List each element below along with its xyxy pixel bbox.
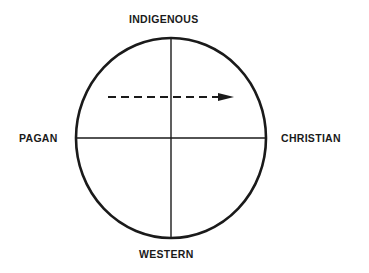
label-indigenous: INDIGENOUS: [129, 14, 199, 25]
label-christian: CHRISTIAN: [281, 133, 341, 144]
label-western: WESTERN: [139, 249, 194, 260]
arrowhead-icon: [218, 93, 234, 101]
label-pagan: PAGAN: [19, 133, 58, 144]
